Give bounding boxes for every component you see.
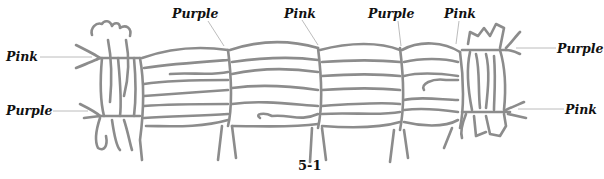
skein-section-2 — [230, 42, 326, 162]
left-end-bundle — [76, 21, 143, 160]
label-top-4-pink: Pink — [444, 6, 476, 21]
label-right-bottom-pink: Pink — [565, 102, 597, 117]
skein-section-3 — [320, 44, 408, 162]
label-right-top-purple: Purple — [557, 41, 604, 56]
skein-section-1 — [142, 48, 236, 160]
right-end-bundle — [461, 24, 526, 138]
figure-caption: 5-1 — [298, 158, 322, 173]
label-top-3-purple: Purple — [368, 6, 415, 21]
label-top-2-pink: Pink — [284, 6, 316, 21]
label-left-bottom-purple: Purple — [6, 103, 53, 118]
label-top-1-purple: Purple — [172, 6, 219, 21]
label-left-top-pink: Pink — [6, 49, 38, 64]
skein-section-4 — [402, 43, 463, 148]
